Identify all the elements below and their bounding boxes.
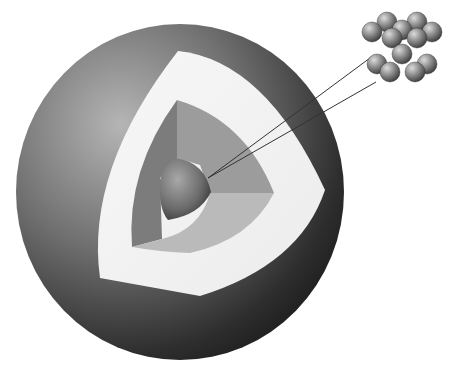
diagram-canvas (0, 0, 457, 366)
atom-cluster (362, 12, 442, 82)
cutaway-sphere-diagram (0, 0, 457, 366)
